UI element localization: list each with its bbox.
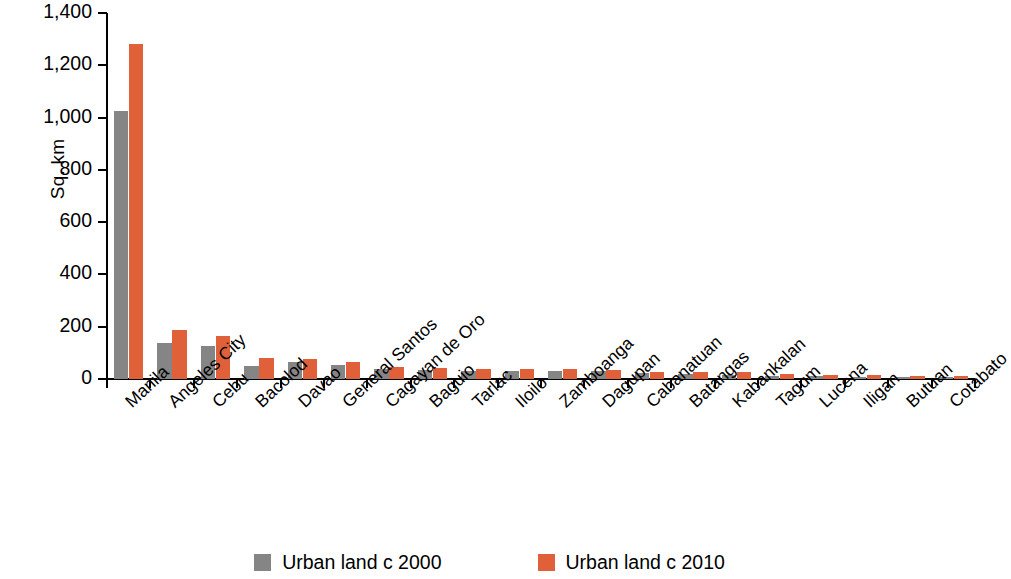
- y-axis-tick-label: 1,000: [0, 107, 92, 126]
- legend-label: Urban land c 2010: [566, 552, 725, 572]
- legend-item: Urban land c 2010: [538, 552, 725, 572]
- bar-group: [678, 13, 708, 379]
- bar-group: [114, 13, 144, 379]
- bar-group: [765, 13, 795, 379]
- bar-group: [939, 13, 969, 379]
- bar: [114, 111, 129, 379]
- bar-group: [288, 13, 318, 379]
- bar: [172, 330, 187, 379]
- bar-group: [852, 13, 882, 379]
- chart-legend: Urban land c 2000Urban land c 2010: [0, 552, 979, 572]
- bar-group: [591, 13, 621, 379]
- y-axis-tick-label: 0: [0, 368, 92, 387]
- bar: [548, 371, 563, 379]
- bar-group: [548, 13, 578, 379]
- y-axis-tick-label: 1,400: [0, 2, 92, 21]
- y-axis-tick-label: 200: [0, 316, 92, 335]
- bar-group: [895, 13, 925, 379]
- x-axis-tick: [106, 379, 108, 388]
- bar-group: [374, 13, 404, 379]
- bar-group: [635, 13, 665, 379]
- plot-area: [107, 13, 975, 379]
- bar-group: [244, 13, 274, 379]
- legend-label: Urban land c 2000: [282, 552, 441, 572]
- bar-group: [808, 13, 838, 379]
- bar-group: [722, 13, 752, 379]
- bar-group: [157, 13, 187, 379]
- bar-group: [505, 13, 535, 379]
- bar-group: [331, 13, 361, 379]
- y-axis-tick-label: 800: [0, 159, 92, 178]
- legend-item: Urban land c 2000: [254, 552, 441, 572]
- legend-swatch-icon: [254, 554, 271, 571]
- bar: [129, 44, 144, 379]
- bar-group: [201, 13, 231, 379]
- legend-swatch-icon: [538, 554, 555, 571]
- y-axis-tick-label: 1,200: [0, 54, 92, 73]
- y-axis-tick-label: 600: [0, 211, 92, 230]
- y-axis-tick-label: 400: [0, 263, 92, 282]
